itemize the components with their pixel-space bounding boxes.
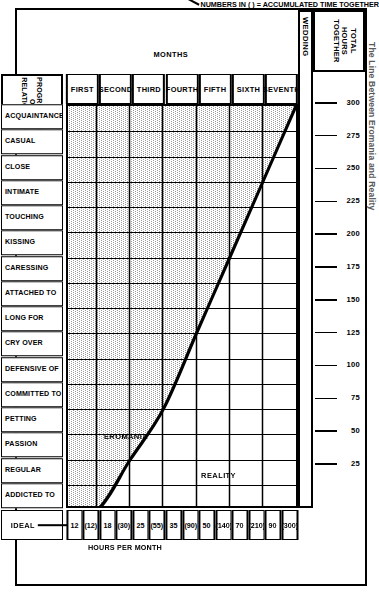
- hours-per-month-value: 70: [232, 510, 249, 540]
- ideal-line-swatch: [37, 524, 67, 526]
- hours-per-month-value: 90: [265, 510, 282, 540]
- stage-label-committed-to: COMMITTED TO: [1, 382, 63, 407]
- total-hours-axis-title-line: TOTAL: [348, 15, 357, 67]
- ideal-legend-label: IDEAL: [10, 521, 34, 530]
- total-hours-tick: [315, 430, 337, 432]
- total-hours-tick: [315, 102, 337, 104]
- hours-per-month-value: 18: [99, 510, 116, 540]
- total-hours-tick-label: 200: [346, 229, 360, 238]
- stage-label-defensive-of: DEFENSIVE OF: [1, 357, 63, 382]
- total-hours-tick-label: 275: [346, 131, 360, 140]
- month-label-fifth: FIFTH: [199, 74, 232, 104]
- total-hours-tick: [315, 233, 337, 235]
- total-hours-tick: [315, 463, 337, 465]
- hours-per-month-value: (12): [83, 510, 100, 540]
- month-label-second: SECOND: [99, 74, 132, 104]
- stage-label-touching: TOUCHING: [1, 205, 63, 230]
- month-label-sixth: SIXTH: [232, 74, 265, 104]
- hours-per-month-value: 25: [132, 510, 149, 540]
- total-hours-tick: [315, 332, 337, 334]
- month-label-seventh: SEVENTH: [265, 74, 298, 104]
- chart-root: The Line Between Eromania and Reality TO…: [0, 0, 379, 596]
- page-title: The Line Between Eromania and Reality: [367, 42, 377, 210]
- wedding-label: WEDDING: [301, 17, 310, 57]
- hours-per-month-title: HOURS PER MONTH: [88, 543, 162, 552]
- total-hours-tick: [315, 201, 337, 203]
- total-hours-tick: [315, 398, 337, 400]
- stage-label-addicted-to: ADDICTED TO: [1, 483, 63, 508]
- hours-per-month-value: (210): [248, 510, 265, 540]
- month-label-first: FIRST: [66, 74, 99, 104]
- total-hours-tick: [315, 135, 337, 137]
- stage-label-caressing: CARESSING: [1, 256, 63, 281]
- hours-per-month-value: (300): [281, 510, 298, 540]
- stage-label-attached-to: ATTACHED TO: [1, 281, 63, 306]
- hours-per-month-value: (30): [116, 510, 133, 540]
- total-hours-axis-title: TOTALHOURSTOGETHER: [331, 15, 357, 67]
- stage-label-regular: REGULAR: [1, 458, 63, 483]
- total-hours-axis-title-line: HOURS: [340, 15, 349, 67]
- stage-label-kissing: KISSING: [1, 230, 63, 255]
- month-label-third: THIRD: [132, 74, 165, 104]
- total-hours-tick-label: 250: [346, 163, 360, 172]
- total-hours-tick-label: 150: [346, 295, 360, 304]
- hours-per-month-value: 50: [199, 510, 216, 540]
- stage-label-passion: PASSION: [1, 432, 63, 457]
- hours-per-month-value: (55): [149, 510, 166, 540]
- stage-label-intimate: INTIMATE: [1, 180, 63, 205]
- hours-per-month-value: (140): [215, 510, 232, 540]
- hours-per-month-value: (90): [182, 510, 199, 540]
- ideal-curve-canvas: [66, 106, 296, 508]
- total-hours-tick-label: 50: [351, 426, 360, 435]
- total-hours-tick-label: 175: [346, 262, 360, 271]
- total-hours-tick-label: 125: [346, 328, 360, 337]
- stage-label-casual: CASUAL: [1, 129, 63, 154]
- total-hours-axis-title-line: TOGETHER: [331, 15, 340, 67]
- stage-label-close: CLOSE: [1, 155, 63, 180]
- accumulated-time-note: NUMBERS IN ( ) = ACCUMULATED TIME TOGETH…: [200, 0, 379, 9]
- total-hours-tick: [315, 299, 337, 301]
- ideal-legend: IDEAL: [1, 510, 63, 540]
- hours-per-month-slash: [185, 0, 200, 6]
- hours-per-month-value: 35: [165, 510, 182, 540]
- total-hours-tick-label: 25: [351, 459, 360, 468]
- stage-label-petting: PETTING: [1, 407, 63, 432]
- month-label-fourth: FOURTH: [165, 74, 198, 104]
- total-hours-tick-label: 100: [346, 360, 360, 369]
- plot-area: EROMANIAREALITY: [66, 104, 298, 508]
- hours-per-month-value: 12: [66, 510, 83, 540]
- total-hours-tick: [315, 266, 337, 268]
- total-hours-tick-label: 225: [346, 196, 360, 205]
- months-axis-title: MONTHS: [154, 50, 188, 59]
- stage-label-long-for: LONG FOR: [1, 306, 63, 331]
- total-hours-tick: [315, 168, 337, 170]
- total-hours-tick: [315, 365, 337, 367]
- rotation-wrapper: The Line Between Eromania and Reality TO…: [0, 0, 379, 596]
- total-hours-ruler: TOTALHOURSTOGETHER3002752502252001751501…: [313, 10, 365, 72]
- stage-label-acquaintance: ACQUAINTANCE: [1, 104, 63, 129]
- total-hours-tick-label: 300: [346, 98, 360, 107]
- wedding-band: WEDDING: [298, 10, 313, 508]
- total-hours-tick-label: 75: [351, 393, 360, 402]
- stage-label-cry-over: CRY OVER: [1, 331, 63, 356]
